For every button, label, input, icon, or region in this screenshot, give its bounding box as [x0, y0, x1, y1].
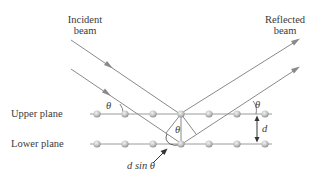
incident-label-line1: Incident: [50, 14, 120, 25]
reflected-ray-upper: [180, 39, 300, 115]
incident-ray-upper: [71, 40, 180, 114]
lower-plane-label: Lower plane: [11, 138, 64, 149]
incident-ray-lower: [71, 69, 182, 144]
bragg-diagram: Incident beam Reflected beam Upper plane…: [0, 0, 311, 178]
incident-theta-label: θ: [106, 100, 111, 111]
reflected-ray-lower: [182, 67, 300, 145]
incident-label-line2: beam: [50, 25, 120, 36]
reflected-beam-label: Reflected beam: [250, 14, 311, 36]
reflected-label-line1: Reflected: [250, 14, 311, 25]
spacing-d-label: d: [262, 123, 267, 134]
center-theta-label: θ: [175, 124, 180, 135]
path-difference-pointer: [153, 149, 168, 164]
reflected-label-line2: beam: [250, 25, 311, 36]
spacing-arrow: [255, 116, 260, 143]
upper-plane-label: Upper plane: [11, 108, 63, 119]
perpendicular-to-reflected: [181, 114, 196, 134]
path-difference-label: d sin θ: [127, 160, 155, 171]
incident-beam-label: Incident beam: [50, 14, 120, 36]
reflected-theta-label: θ: [255, 99, 260, 110]
